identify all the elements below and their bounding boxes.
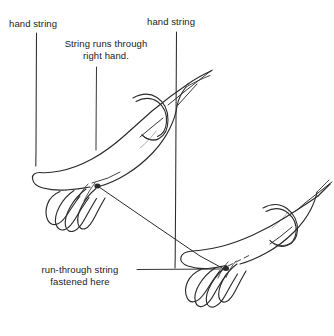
left-wrist-loop xyxy=(133,94,168,140)
left-knot-dot xyxy=(94,184,100,189)
right-hand-string xyxy=(175,32,177,268)
left-knot-string-stub xyxy=(92,172,120,183)
left-arm xyxy=(32,71,212,232)
label-string-runs-through: String runs through right hand. xyxy=(52,38,160,62)
label-hand-string-left: hand string xyxy=(9,18,57,30)
center-note-leader xyxy=(96,67,97,150)
hand-string-diagram: hand string hand string String runs thro… xyxy=(0,0,334,336)
right-wrist-loop xyxy=(263,205,298,247)
right-palm-string-hint xyxy=(228,255,250,266)
right-arm xyxy=(181,180,330,307)
label-run-through-fastened: run-through string fastened here xyxy=(28,264,132,288)
left-hand-string xyxy=(36,33,37,166)
right-knot-dot xyxy=(223,266,229,271)
label-hand-string-right: hand string xyxy=(147,16,195,28)
bottom-caption-leader xyxy=(137,269,224,270)
run-through-string xyxy=(99,187,224,269)
